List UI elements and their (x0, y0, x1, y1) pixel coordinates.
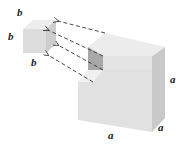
label-small-cube-width: b (31, 57, 37, 68)
label-large-cube-height: a (170, 74, 176, 85)
label-small-cube-depth: b (17, 7, 23, 18)
diagram-canvas (0, 0, 181, 144)
large-cube (78, 33, 165, 132)
label-large-cube-depth: a (158, 122, 164, 133)
cube-diagram: b b b a a a (0, 0, 181, 144)
label-small-cube-height: b (8, 31, 14, 42)
label-large-cube-width: a (108, 130, 114, 141)
arrow-1 (58, 21, 105, 33)
small-cube (23, 20, 56, 53)
arrow-4 (48, 55, 93, 82)
